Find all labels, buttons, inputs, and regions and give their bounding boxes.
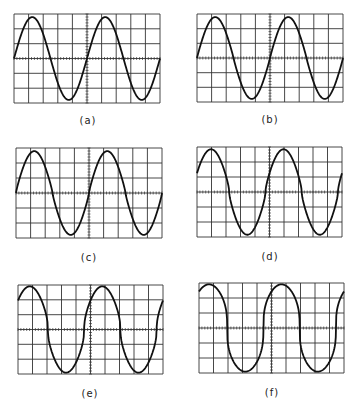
panel-label-d: (d) [250, 251, 290, 262]
oscilloscope-graticule [18, 285, 163, 374]
oscilloscope-panel-b [197, 14, 343, 102]
oscilloscope-panel-d [197, 147, 342, 237]
panel-label-b: (b) [250, 114, 290, 125]
panel-label-a: (a) [68, 115, 108, 126]
oscilloscope-panel-e [18, 285, 163, 374]
oscilloscope-graticule [14, 14, 160, 103]
panel-label-e: (e) [70, 388, 110, 399]
panel-label-c: (c) [69, 252, 109, 263]
oscilloscope-graticule [197, 14, 343, 102]
oscilloscope-panel-a [14, 14, 160, 103]
oscilloscope-panel-f [199, 283, 344, 373]
panel-label-f: (f) [252, 387, 292, 398]
oscilloscope-panel-c [16, 148, 162, 238]
oscilloscope-graticule [199, 283, 344, 373]
oscilloscope-graticule [16, 148, 162, 238]
oscilloscope-graticule [197, 147, 342, 237]
